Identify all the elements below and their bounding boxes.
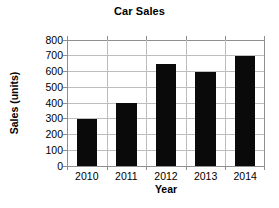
y-tick-label: 500 <box>22 82 63 93</box>
bar <box>195 72 216 167</box>
y-tick-label: 100 <box>22 145 63 156</box>
y-tick-label: 600 <box>22 66 63 77</box>
plot-area <box>67 40 265 166</box>
x-tick-label: 2010 <box>67 170 107 182</box>
x-tick-mark-top <box>186 36 187 40</box>
gridline-vertical <box>107 40 108 166</box>
x-tick-mark-top <box>264 36 265 40</box>
x-tick-mark-top <box>67 36 68 40</box>
bar <box>156 64 177 166</box>
x-axis-tick-labels: 20102011201220132014 <box>67 170 265 183</box>
x-tick-label: 2013 <box>186 170 226 182</box>
bar <box>77 119 98 166</box>
y-axis-title-container: Sales (units) <box>6 40 22 166</box>
y-tick-label: 300 <box>22 113 63 124</box>
gridline-vertical <box>146 40 147 166</box>
x-tick-mark-top <box>225 36 226 40</box>
y-tick-label: 0 <box>22 161 63 172</box>
y-tick-label: 400 <box>22 98 63 109</box>
x-tick-label: 2014 <box>225 170 265 182</box>
x-tick-mark-top <box>146 36 147 40</box>
gridline-vertical <box>264 40 265 166</box>
gridline-vertical <box>67 40 68 166</box>
gridline-horizontal <box>67 40 265 41</box>
y-tick-label: 800 <box>22 35 63 46</box>
gridline-vertical <box>186 40 187 166</box>
y-tick-label: 200 <box>22 129 63 140</box>
gridline-vertical <box>225 40 226 166</box>
x-tick-label: 2011 <box>107 170 147 182</box>
x-tick-label: 2012 <box>146 170 186 182</box>
x-axis-title: Year <box>67 183 265 195</box>
x-tick-mark-top <box>107 36 108 40</box>
bar <box>116 103 137 166</box>
bar <box>235 56 256 166</box>
chart-figure: Car Sales Sales (units) 8007006005004003… <box>0 0 279 208</box>
y-axis-tick-labels: 8007006005004003002001000 <box>22 40 63 166</box>
chart-title: Car Sales <box>0 5 279 18</box>
y-axis-title: Sales (units) <box>8 72 20 134</box>
y-tick-label: 700 <box>22 50 63 61</box>
